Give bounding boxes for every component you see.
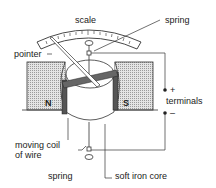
terminal-minus [163,111,167,115]
label-spring-bottom: spring [48,171,73,181]
label-spring-top: spring [165,15,190,25]
bottom-spring [85,155,93,160]
label-scale: scale [75,15,96,25]
label-soft-iron-core: soft iron core [115,171,167,181]
soft-iron-core [66,60,114,120]
magnet-south [115,62,153,110]
label-plus: + [170,85,175,95]
label-south: S [123,98,129,108]
top-spring [85,41,93,46]
label-pointer: pointer [14,49,42,59]
label-coil-2: of wire [15,150,42,160]
label-north: N [45,98,52,108]
label-coil-1: moving coil [15,140,60,150]
label-minus: – [170,108,175,118]
terminal-plus [163,88,167,92]
label-terminals: terminals [166,96,203,106]
